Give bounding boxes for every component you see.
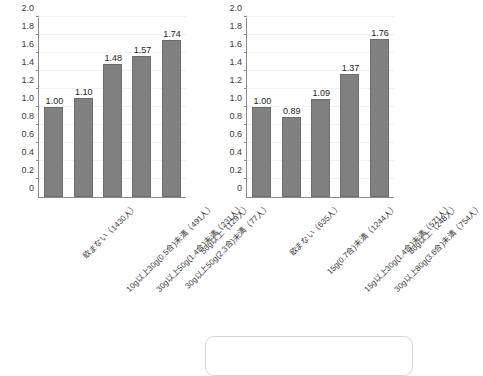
bar-value-label: 1.57 [134, 46, 152, 55]
bar[interactable] [340, 74, 359, 197]
y-tick-label: 1.0 [229, 94, 242, 103]
y-tick-label: 0 [29, 184, 34, 193]
bar-column: 1.74 [162, 18, 181, 197]
bar[interactable] [282, 117, 301, 197]
bar-value-label: 0.89 [283, 107, 301, 116]
bar-column: 1.37 [340, 18, 359, 197]
bar-column: 1.10 [74, 18, 93, 197]
bar[interactable] [311, 99, 330, 197]
bar-column: 0.89 [282, 18, 301, 197]
plot-area-left: 2.0 1.8 1.6 1.4 1.2 1.0 0.8 0.6 0.4 0.2 … [38, 18, 186, 198]
chart-panel-left: 2.0 1.8 1.6 1.4 1.2 1.0 0.8 0.6 0.4 0.2 … [0, 0, 208, 347]
y-tick-label: 1.8 [21, 22, 34, 31]
bar[interactable] [252, 107, 271, 197]
y-tick-label: 1.4 [21, 58, 34, 67]
y-tick-label: 0 [237, 184, 242, 193]
bar[interactable] [162, 40, 181, 197]
y-tick-label: 1.2 [229, 76, 242, 85]
bar-column: 1.48 [103, 18, 122, 197]
x-tick-label: 飲まない（1430人） [82, 203, 140, 261]
y-tick-label: 1.4 [229, 58, 242, 67]
y-tick-label: 0.8 [21, 112, 34, 121]
bar-column: 1.57 [132, 18, 151, 197]
bar[interactable] [132, 56, 151, 197]
y-tick-label: 2.0 [21, 4, 34, 13]
x-tick-label: 飲まない（635人） [288, 203, 343, 258]
chart-panel-right: 2.0 1.8 1.6 1.4 1.2 1.0 0.8 0.6 0.4 0.2 … [208, 0, 416, 347]
y-tick-label: 1.2 [21, 76, 34, 85]
y-tick-label: 0.6 [229, 130, 242, 139]
y-tick-label: 0.2 [229, 166, 242, 175]
bar-value-label: 1.09 [312, 89, 330, 98]
bar-series-right: 1.00 0.89 1.09 1.37 1.76 [247, 18, 394, 197]
y-tick-label: 0.6 [21, 130, 34, 139]
bar-series-left: 1.00 1.10 1.48 1.57 1.74 [39, 18, 186, 197]
bar-column: 1.00 [252, 18, 271, 197]
y-tick-label: 1.6 [229, 40, 242, 49]
bar-value-label: 1.48 [104, 54, 122, 63]
bar[interactable] [103, 64, 122, 197]
y-tick-label: 1.0 [21, 94, 34, 103]
bottom-rounded-panel [205, 336, 413, 376]
bar[interactable] [74, 98, 93, 197]
y-tick-label: 0.4 [229, 148, 242, 157]
y-tick-label: 2.0 [229, 4, 242, 13]
bar-value-label: 1.00 [254, 97, 272, 106]
y-tick-label: 1.6 [21, 40, 34, 49]
y-tick-label: 0.2 [21, 166, 34, 175]
plot-area-right: 2.0 1.8 1.6 1.4 1.2 1.0 0.8 0.6 0.4 0.2 … [246, 18, 394, 198]
bar-value-label: 1.76 [371, 29, 389, 38]
y-tick-label: 0.4 [21, 148, 34, 157]
bar[interactable] [44, 107, 63, 197]
bar-value-label: 1.00 [46, 97, 64, 106]
bar-value-label: 1.10 [75, 88, 93, 97]
bar-column: 1.09 [311, 18, 330, 197]
bar-value-label: 1.37 [342, 64, 360, 73]
bar-value-label: 1.74 [163, 30, 181, 39]
bar[interactable] [370, 39, 389, 197]
bar-column: 1.76 [370, 18, 389, 197]
y-tick-label: 1.8 [229, 22, 242, 31]
bar-column: 1.00 [44, 18, 63, 197]
y-tick-label: 0.8 [229, 112, 242, 121]
